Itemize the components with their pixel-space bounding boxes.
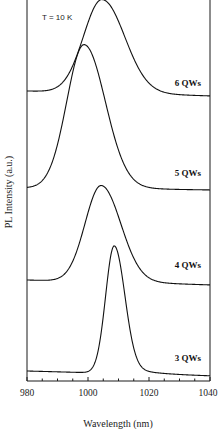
series-label-5qws: 5 QWs xyxy=(175,168,202,178)
y-axis-title: PL Intensity (a.u.) xyxy=(3,156,15,228)
series-label-6qws: 6 QWs xyxy=(175,78,202,88)
series-label-3qws: 3 QWs xyxy=(175,353,202,363)
series-labels: 6 QWs 5 QWs 4 QWs 3 QWs xyxy=(175,78,202,363)
temperature-annotation: T = 10 K xyxy=(42,13,73,22)
spectrum-curve-4qws xyxy=(27,186,210,285)
x-axis-title: Wavelength (nm) xyxy=(83,418,152,429)
x-tick-label-980: 980 xyxy=(20,388,35,398)
x-tick-labels: 980 1000 1020 1040 xyxy=(20,388,218,398)
x-tick-label-1000: 1000 xyxy=(79,388,98,398)
x-axis-ticks xyxy=(27,377,210,381)
x-tick-label-1040: 1040 xyxy=(199,388,218,398)
pl-spectra-chart: 980 1000 1020 1040 Wavelength (nm) PL In… xyxy=(0,0,223,429)
spectra-curves xyxy=(27,0,210,376)
plot-frame xyxy=(27,0,210,381)
x-tick-label-1020: 1020 xyxy=(140,388,159,398)
series-label-4qws: 4 QWs xyxy=(175,260,202,270)
